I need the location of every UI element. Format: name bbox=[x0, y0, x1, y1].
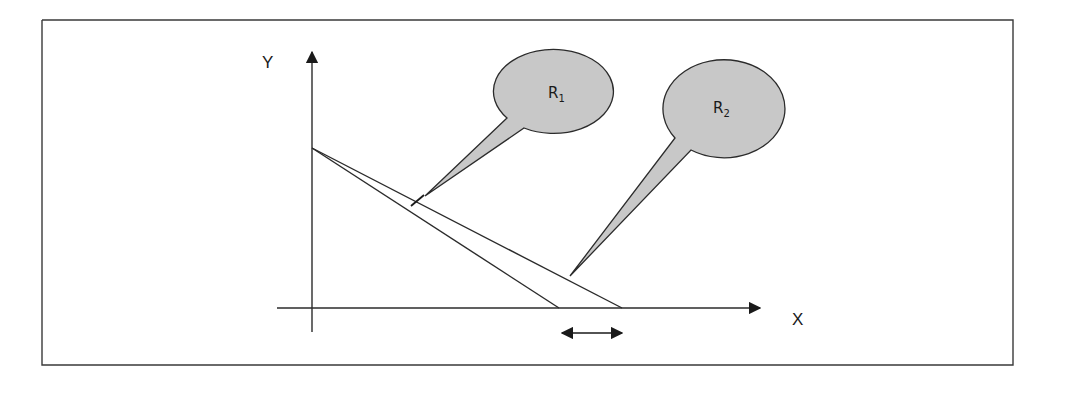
y-axis-label: Y bbox=[262, 53, 273, 72]
x-axis-label: X bbox=[792, 310, 803, 329]
line-steep bbox=[312, 148, 559, 308]
line-shallow bbox=[312, 148, 622, 308]
figure-frame-bottom bbox=[42, 175, 1013, 365]
callout-r1-shape bbox=[425, 49, 613, 196]
callout-r1: R1 bbox=[425, 49, 613, 196]
y-axis: Y bbox=[262, 52, 312, 332]
diagram-canvas: Y X R1 R2 bbox=[0, 0, 1074, 394]
x-axis: X bbox=[277, 308, 803, 329]
